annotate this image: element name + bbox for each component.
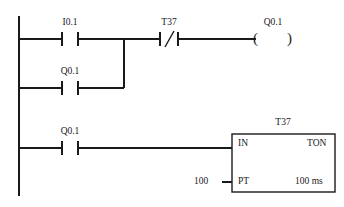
timer-block-name-label: T37 — [275, 118, 290, 128]
coil-close-paren: ) — [287, 31, 292, 46]
timer-preset-value: 100 — [194, 177, 208, 187]
contact-t37-nc-slash — [165, 31, 174, 47]
timer-timebase-label: 100 ms — [295, 177, 323, 187]
contact-label-q01-branch: Q0.1 — [61, 67, 80, 77]
coil-label-q01: Q0.1 — [264, 18, 283, 28]
timer-pt-label: PT — [238, 177, 249, 187]
timer-in-label: IN — [238, 139, 248, 149]
coil-open-paren: ( — [253, 31, 258, 46]
contact-label-q01-timer: Q0.1 — [61, 127, 80, 137]
contact-label-i01: I0.1 — [62, 18, 77, 28]
contact-label-t37: T37 — [161, 18, 176, 28]
timer-ton-label: TON — [307, 139, 326, 149]
ladder-diagram: I0.1 T37 Q0.1 ( ) Q0.1 Q0.1 T37 IN TON P… — [0, 0, 344, 207]
ladder-canvas — [0, 0, 344, 207]
